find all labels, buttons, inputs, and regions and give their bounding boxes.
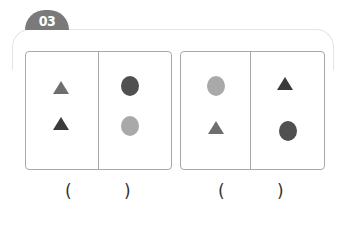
triangle-icon (53, 81, 69, 94)
triangle-icon (277, 77, 293, 90)
circle-icon (279, 121, 297, 141)
question-number-badge: 03 (25, 10, 69, 30)
answer-close-paren-1: ) (124, 181, 131, 201)
box-divider (98, 52, 99, 169)
box-divider (250, 52, 251, 169)
circle-icon (121, 76, 139, 96)
answer-close-paren-2: ) (277, 181, 284, 201)
answer-open-paren-1: ( (65, 181, 72, 201)
circle-icon (121, 116, 139, 136)
answer-open-paren-2: ( (218, 181, 225, 201)
option-box-2 (180, 51, 325, 170)
triangle-icon (208, 121, 224, 134)
option-box-1 (25, 51, 172, 170)
triangle-icon (53, 117, 69, 130)
circle-icon (207, 76, 225, 96)
